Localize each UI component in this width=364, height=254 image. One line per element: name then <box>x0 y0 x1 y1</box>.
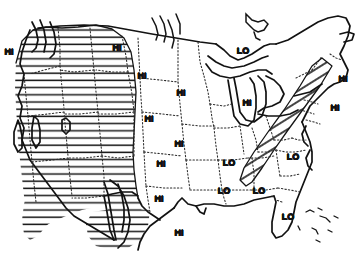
us-hi-lo-map: HI HI HI HI HI HI HI HI HI LO HI HI HI L… <box>0 0 364 254</box>
map-drawing <box>0 0 364 254</box>
